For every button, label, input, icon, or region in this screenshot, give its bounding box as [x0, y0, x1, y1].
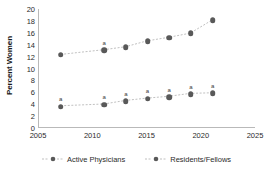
y-axis-tick: 8: [31, 76, 35, 85]
legend-marker-icon: [42, 155, 64, 163]
data-point[interactable]: [145, 38, 151, 44]
data-point-annotation: a: [102, 40, 105, 46]
x-axis-tick: 2020: [192, 131, 209, 140]
data-point[interactable]: [188, 31, 194, 37]
y-axis-tick: 20: [27, 5, 35, 14]
data-point[interactable]: [101, 47, 107, 53]
data-point-annotation: a: [168, 87, 171, 93]
x-axis-tick: 2010: [84, 131, 101, 140]
legend-item-active-physicians[interactable]: Active Physicians: [42, 155, 125, 164]
legend-marker-icon: [145, 155, 167, 163]
series-line: [61, 20, 212, 54]
y-axis-tick: 10: [27, 64, 35, 73]
x-axis-tick: 2015: [138, 131, 155, 140]
data-point[interactable]: [210, 91, 216, 97]
plot-inner: aaaaaaaa: [39, 9, 255, 127]
legend-label: Active Physicians: [67, 155, 125, 164]
data-point[interactable]: [166, 94, 172, 100]
x-axis-tick-labels: 20052010201520202025: [0, 131, 273, 145]
data-point[interactable]: [101, 102, 107, 108]
x-axis-tick: 2005: [30, 131, 47, 140]
y-axis-tick: 4: [31, 100, 35, 109]
data-point[interactable]: [188, 91, 194, 97]
data-point-annotation: a: [59, 96, 62, 102]
legend-label: Residents/Fellows: [170, 155, 231, 164]
y-axis-tick: 16: [27, 28, 35, 37]
y-axis-tick: 6: [31, 88, 35, 97]
data-point[interactable]: [123, 44, 129, 50]
y-axis-tick: 14: [27, 40, 35, 49]
data-point-annotation: a: [102, 94, 105, 100]
chart-legend: Active Physicians Residents/Fellows: [0, 151, 273, 167]
y-axis-tick: 2: [31, 112, 35, 121]
plot-area: aaaaaaaa: [38, 9, 255, 128]
legend-item-residents-fellows[interactable]: Residents/Fellows: [145, 155, 231, 164]
data-point-annotation: a: [146, 88, 149, 94]
data-point-annotation: a: [189, 84, 192, 90]
y-axis-tick: 12: [27, 52, 35, 61]
data-point[interactable]: [58, 52, 64, 58]
data-point[interactable]: [210, 18, 216, 24]
y-axis-tick: 18: [27, 16, 35, 25]
data-point[interactable]: [145, 96, 151, 102]
x-axis-tick: 2025: [247, 131, 264, 140]
series-lines: [39, 9, 255, 127]
data-point[interactable]: [58, 104, 64, 110]
data-point-annotation: a: [124, 91, 127, 97]
chart-figure: Percent Women 02468101214161820 aaaaaaaa…: [0, 0, 273, 173]
y-axis-tick-labels: 02468101214161820: [16, 0, 36, 130]
y-axis-title-text: Percent Women: [5, 35, 14, 94]
data-point-annotation: a: [211, 83, 214, 89]
data-point[interactable]: [166, 35, 172, 41]
data-point[interactable]: [123, 98, 129, 104]
